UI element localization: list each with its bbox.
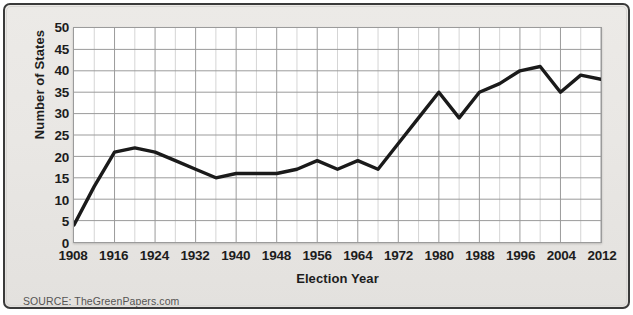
x-tick-label: 1932 [180,248,209,263]
y-tick-label: 45 [54,41,69,56]
x-tick-label: 2012 [587,248,616,263]
y-tick-label: 40 [54,63,69,78]
y-tick-label: 5 [62,214,69,229]
x-tick-label: 1940 [221,248,250,263]
x-tick-label: 1972 [384,248,413,263]
x-tick-label: 1964 [343,248,372,263]
source-note: SOURCE: TheGreenPapers.com [23,295,179,307]
x-tick-label: 1996 [506,248,535,263]
y-tick-label: 30 [54,106,69,121]
x-tick-label: 1908 [58,248,87,263]
y-tick-label: 10 [54,192,69,207]
y-tick-label: 15 [54,171,69,186]
x-axis-tick-labels: 1908191619241932194019481956196419721980… [73,248,602,268]
plot-wrapper [73,27,602,243]
x-tick-label: 1988 [465,248,494,263]
chart-frame: Number of States 05101520253035404550 19… [3,3,630,309]
x-tick-label: 1980 [425,248,454,263]
x-tick-label: 1916 [99,248,128,263]
x-tick-label: 1948 [262,248,291,263]
chart-screenshot: Number of States 05101520253035404550 19… [0,0,633,315]
x-tick-label: 1956 [303,248,332,263]
y-axis-tick-labels: 05101520253035404550 [39,27,69,243]
x-tick-label: 1924 [140,248,169,263]
y-tick-label: 20 [54,149,69,164]
x-axis-title: Election Year [73,271,602,286]
y-tick-label: 35 [54,84,69,99]
y-tick-label: 50 [54,20,69,35]
data-line-chart [74,28,601,242]
y-tick-label: 25 [54,128,69,143]
x-tick-label: 2004 [547,248,576,263]
plot-area [73,27,602,243]
gridlines [74,28,601,242]
